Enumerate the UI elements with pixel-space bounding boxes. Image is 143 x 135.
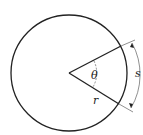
theta-label: θ: [91, 69, 98, 82]
circle-arc-diagram: θ r s: [0, 0, 143, 135]
r-label: r: [93, 94, 99, 107]
s-label: s: [135, 67, 141, 80]
